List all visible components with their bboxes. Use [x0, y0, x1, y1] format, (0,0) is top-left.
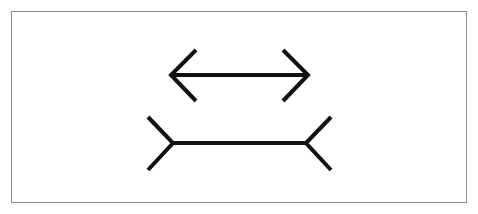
illusion-canvas [0, 0, 478, 214]
outer-border-frame [12, 12, 467, 203]
illusion-figure-container [0, 0, 478, 214]
